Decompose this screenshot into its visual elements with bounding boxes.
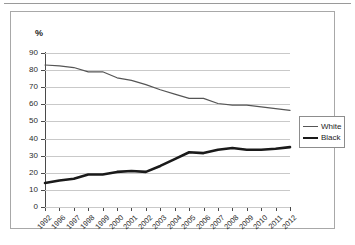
top-divider-rule xyxy=(4,3,351,4)
y-tick-label: 70 xyxy=(16,83,38,91)
y-tick-label: 40 xyxy=(16,135,38,143)
y-axis-unit-label: % xyxy=(35,28,43,38)
y-tick-label: 30 xyxy=(16,152,38,160)
black-line-swatch-icon xyxy=(303,137,318,139)
y-tick-label: 80 xyxy=(16,66,38,74)
series-lines xyxy=(45,53,290,207)
x-tick-mark xyxy=(290,207,291,211)
y-tick-label: 50 xyxy=(16,117,38,125)
chart-page: % 0102030405060708090 199219961997199819… xyxy=(0,0,355,245)
y-tick-label: 0 xyxy=(16,203,38,211)
y-tick-label: 60 xyxy=(16,100,38,108)
legend-item-black: Black xyxy=(303,132,341,143)
y-tick-label: 20 xyxy=(16,169,38,177)
legend-label-black: Black xyxy=(321,133,341,142)
chart-legend: White Black xyxy=(299,116,345,148)
series-line-black xyxy=(45,147,290,183)
chart-frame: % 0102030405060708090 199219961997199819… xyxy=(10,11,335,229)
legend-item-white: White xyxy=(303,121,341,132)
y-tick-label: 10 xyxy=(16,186,38,194)
y-tick-label: 90 xyxy=(16,49,38,57)
legend-label-white: White xyxy=(321,122,341,131)
plot-area xyxy=(45,53,290,207)
series-line-white xyxy=(45,65,290,110)
white-line-swatch-icon xyxy=(303,126,318,127)
gridline xyxy=(45,207,290,208)
